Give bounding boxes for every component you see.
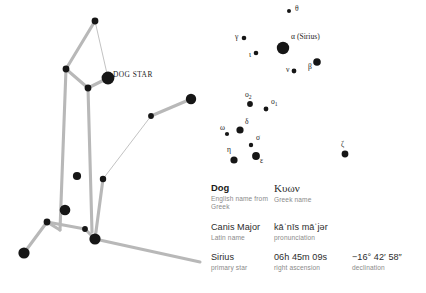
star-label-omicron-2: ο2 xyxy=(245,90,252,100)
constellation-info-block: DogEnglish name from GreekΚυωνGreek name… xyxy=(211,182,426,272)
star-label-beta: β xyxy=(308,62,312,71)
star-field-labels: θγα (Sirius)ιβνο2ο1δωσεηζ xyxy=(220,4,344,165)
latin-row: Canis MajorLatin namekāˈnīs māˈjərpronun… xyxy=(211,222,426,242)
figure-connector xyxy=(24,222,47,253)
star-label-alpha: α (Sirius) xyxy=(291,32,320,41)
star-zeta xyxy=(342,151,349,158)
declination: −16° 42′ 58″declination xyxy=(352,252,426,272)
figure-connector xyxy=(66,21,95,69)
star-iota xyxy=(254,51,259,56)
star-delta xyxy=(236,126,243,133)
declination-term: −16° 42′ 58″ xyxy=(352,252,426,263)
star-label-gamma: γ xyxy=(234,32,239,41)
star-field-dots xyxy=(225,9,349,164)
star-label-delta: δ xyxy=(245,117,249,126)
english-name: DogEnglish name from Greek xyxy=(211,182,274,212)
greek-name-term: Κυων xyxy=(274,182,352,195)
star-node-neck xyxy=(63,66,70,73)
star-node-head-top xyxy=(92,18,99,25)
figure-star-dots xyxy=(18,18,196,259)
star-label-theta: θ xyxy=(295,4,299,13)
greek-name-caption: Greek name xyxy=(274,196,352,204)
primary-star-caption: primary star xyxy=(211,264,274,272)
star-omega xyxy=(225,132,229,136)
declination-caption: declination xyxy=(352,264,426,272)
latin-name: Canis MajorLatin name xyxy=(211,222,274,242)
star-node-foot-rear xyxy=(89,233,100,244)
star-nu xyxy=(292,69,297,74)
star-omicron-2 xyxy=(247,101,253,107)
figure-connector xyxy=(66,69,88,88)
star-node-foot-front xyxy=(18,247,29,258)
right-ascension-caption: right ascension xyxy=(274,264,352,272)
figure-connector xyxy=(151,99,191,116)
star-row: Siriusprimary star06h 45m 09sright ascen… xyxy=(211,252,426,272)
star-theta xyxy=(287,9,291,13)
figure-connector-lines-thick xyxy=(24,21,200,262)
star-label-sigma: σ xyxy=(256,133,260,142)
star-alpha xyxy=(277,42,289,54)
star-epsilon xyxy=(252,152,260,160)
figure-connector xyxy=(95,179,103,239)
dog-star-label: DOG STAR xyxy=(113,70,153,79)
english-name-caption: English name from Greek xyxy=(211,195,274,212)
star-node-hip xyxy=(44,219,51,226)
greek-name: ΚυωνGreek name xyxy=(274,182,352,212)
star-beta xyxy=(313,58,321,66)
star-omicron-1 xyxy=(264,107,269,112)
name-row: DogEnglish name from GreekΚυωνGreek name xyxy=(211,182,426,212)
pronunciation: kāˈnīs māˈjərpronunciation xyxy=(274,222,352,242)
pronunciation-term: kāˈnīs māˈjər xyxy=(274,222,352,233)
star-label-nu: ν xyxy=(286,65,290,74)
english-name-term: Dog xyxy=(211,182,274,193)
right-ascension-term: 06h 45m 09s xyxy=(274,252,352,263)
pronunciation-caption: pronunciation xyxy=(274,234,352,242)
star-label-zeta: ζ xyxy=(341,140,344,149)
constellation-infographic: DOG STAR θγα (Sirius)ιβνο2ο1δωσεηζ DogEn… xyxy=(0,0,426,293)
figure-connector-lines-thin xyxy=(95,21,151,179)
right-ascension: 06h 45m 09sright ascension xyxy=(274,252,352,272)
star-label-omicron-1: ο1 xyxy=(271,97,278,107)
star-label-omega: ω xyxy=(220,123,225,132)
star-node-body-right xyxy=(100,176,106,182)
figure-connector-faint xyxy=(103,116,151,179)
latin-name-term: Canis Major xyxy=(211,222,274,233)
figure-connector xyxy=(88,88,92,232)
star-eta xyxy=(230,156,237,163)
primary-star: Siriusprimary star xyxy=(211,252,274,272)
star-label-iota: ι xyxy=(249,50,252,59)
star-node-chest xyxy=(85,85,92,92)
star-node-tail-mid xyxy=(148,113,154,119)
star-label-eta: η xyxy=(227,145,231,154)
star-node-body-inner xyxy=(73,172,81,180)
primary-star-term: Sirius xyxy=(211,252,274,263)
star-gamma xyxy=(242,36,247,41)
bayer-designation-star-field: θγα (Sirius)ιβνο2ο1δωσεηζ xyxy=(215,0,426,175)
star-node-tail-end xyxy=(186,94,196,104)
latin-name-caption: Latin name xyxy=(211,234,274,242)
star-node-knee xyxy=(82,226,88,232)
figure-connector-faint xyxy=(95,21,108,78)
constellation-stick-figure-map: DOG STAR xyxy=(0,0,215,275)
star-node-belly xyxy=(60,205,71,216)
star-label-epsilon: ε xyxy=(260,156,263,165)
star-sigma xyxy=(249,143,253,147)
figure-connector xyxy=(95,239,200,262)
